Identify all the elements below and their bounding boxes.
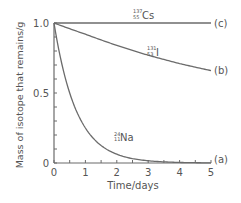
cs-symbol: Cs xyxy=(142,10,154,21)
decay-chart: 00.51.0 012345 Time/days Mass of isotope… xyxy=(0,0,241,203)
label-i: 131 53 I (b) xyxy=(147,45,228,76)
x-tick-label: 0 xyxy=(51,167,57,178)
label-cs: 137 55 Cs (c) xyxy=(133,8,227,29)
x-axis-label: Time/days xyxy=(106,180,158,191)
i-symbol: I xyxy=(156,47,159,58)
curve-b xyxy=(54,23,211,71)
curve-a-tag: (a) xyxy=(214,154,228,165)
i-atomic-number: 53 xyxy=(147,51,153,57)
x-tick-label: 2 xyxy=(114,167,120,178)
cs-atomic-number: 55 xyxy=(133,14,139,20)
curve-b-tag: (b) xyxy=(214,65,228,76)
x-tick-label: 3 xyxy=(145,167,151,178)
y-tick-label: 0.5 xyxy=(33,88,49,99)
x-tick-label: 5 xyxy=(208,167,214,178)
y-tick-label: 0 xyxy=(43,158,49,169)
y-tick-labels: 00.51.0 xyxy=(33,18,49,169)
x-tick-label: 4 xyxy=(176,167,182,178)
y-axis-label: Mass of isotope that remains/g xyxy=(14,22,25,169)
y-tick-label: 1.0 xyxy=(33,18,49,29)
na-symbol: Na xyxy=(120,132,134,143)
curve-c-tag: (c) xyxy=(214,18,227,29)
x-tick-labels: 012345 xyxy=(51,167,214,178)
label-na: 24 11 Na (a) xyxy=(114,131,228,165)
x-tick-label: 1 xyxy=(82,167,88,178)
